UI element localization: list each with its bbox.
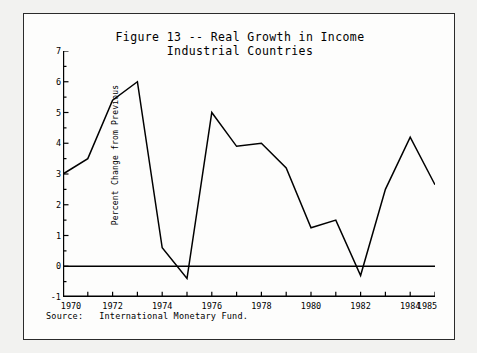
y-tick-label-2: 2 (56, 200, 61, 210)
chart-title-line-1: Figure 13 -- Real Growth in Income (24, 30, 456, 44)
source-note: Source: International Monetary Fund. (46, 311, 248, 321)
figure-frame: Figure 13 -- Real Growth in Income Indus… (23, 13, 455, 340)
x-tick-label-1982: 1982 (350, 301, 370, 311)
x-tick-label-1972: 1972 (102, 301, 122, 311)
y-axis-label: Percent Change from Previous (111, 75, 120, 235)
y-tick-label-0: 0 (56, 261, 61, 271)
y-tick-label-3: 3 (56, 169, 61, 179)
x-tick-label-1985: 1985 (417, 301, 437, 311)
x-tick-label-1974: 1974 (152, 301, 172, 311)
figure-page: Figure 13 -- Real Growth in Income Indus… (0, 0, 477, 353)
x-tick-label-1976: 1976 (202, 301, 222, 311)
x-tick-label-1980: 1980 (301, 301, 321, 311)
y-tick-label-5: 5 (56, 108, 61, 118)
plot-area: Percent Change from Previous 76543210-1 … (63, 51, 435, 297)
y-tick-label-6: 6 (56, 77, 61, 87)
y-tick-label-4: 4 (56, 138, 61, 148)
y-tick-label-1: 1 (56, 231, 61, 241)
y-axis-tick-labels: 76543210-1 (43, 51, 61, 297)
y-tick-label-7: 7 (56, 46, 61, 56)
x-tick-label-1978: 1978 (251, 301, 271, 311)
y-tick-label--1: -1 (51, 292, 61, 302)
x-tick-label-1970: 1970 (61, 301, 81, 311)
